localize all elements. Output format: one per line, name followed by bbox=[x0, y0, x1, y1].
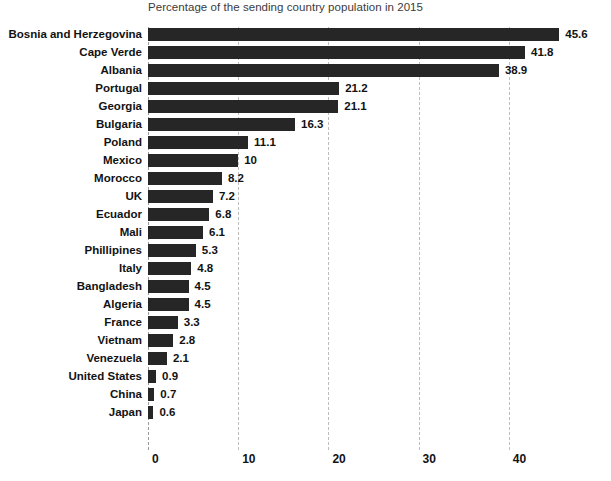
bar-value-label: 41.8 bbox=[531, 46, 553, 59]
bar-category-label: Mexico bbox=[0, 154, 142, 167]
bar-value-label: 0.6 bbox=[159, 406, 175, 419]
bar bbox=[148, 46, 525, 59]
bar-category-label: Phillipines bbox=[0, 244, 142, 257]
bar-category-label: France bbox=[0, 316, 142, 329]
bar-category-label: Italy bbox=[0, 262, 142, 275]
bar-value-label: 11.1 bbox=[254, 136, 276, 149]
bar-category-label: United States bbox=[0, 370, 142, 383]
chart-title: Percentage of the sending country popula… bbox=[148, 1, 423, 13]
bar bbox=[148, 136, 248, 149]
bar-row: Italy4.8 bbox=[0, 261, 611, 279]
bar-category-label: Venezuela bbox=[0, 352, 142, 365]
bar bbox=[148, 406, 153, 419]
bar bbox=[148, 244, 196, 257]
bar bbox=[148, 280, 189, 293]
bar-row: Albania38.9 bbox=[0, 63, 611, 81]
x-tick-label-0: 0 bbox=[152, 452, 159, 466]
bar bbox=[148, 190, 213, 203]
bar-category-label: Vietnam bbox=[0, 334, 142, 347]
bar-category-label: Bangladesh bbox=[0, 280, 142, 293]
bar-row: Japan0.6 bbox=[0, 405, 611, 423]
bar-row: France3.3 bbox=[0, 315, 611, 333]
bar bbox=[148, 28, 559, 41]
bar-value-label: 2.1 bbox=[173, 352, 189, 365]
bar-category-label: Albania bbox=[0, 64, 142, 77]
bar-row: China0.7 bbox=[0, 387, 611, 405]
bar-value-label: 45.6 bbox=[565, 28, 587, 41]
bar bbox=[148, 352, 167, 365]
bar bbox=[148, 334, 173, 347]
bar-row: Bulgaria16.3 bbox=[0, 117, 611, 135]
bar bbox=[148, 298, 189, 311]
x-tick-label-30: 30 bbox=[423, 452, 436, 466]
bar-row: Mali6.1 bbox=[0, 225, 611, 243]
bar-value-label: 0.9 bbox=[162, 370, 178, 383]
bar-value-label: 2.8 bbox=[179, 334, 195, 347]
bar bbox=[148, 172, 222, 185]
bar-category-label: Poland bbox=[0, 136, 142, 149]
bar-value-label: 4.5 bbox=[195, 298, 211, 311]
bar bbox=[148, 100, 338, 113]
x-axis: 010203040 bbox=[0, 452, 611, 472]
bar-category-label: Bulgaria bbox=[0, 118, 142, 131]
bar bbox=[148, 208, 209, 221]
bar bbox=[148, 370, 156, 383]
bar bbox=[148, 226, 203, 239]
bar-row: Phillipines5.3 bbox=[0, 243, 611, 261]
bar-category-label: Georgia bbox=[0, 100, 142, 113]
bar-row: Portugal21.2 bbox=[0, 81, 611, 99]
bar-row: Bosnia and Herzegovina45.6 bbox=[0, 27, 611, 45]
bar-category-label: Portugal bbox=[0, 82, 142, 95]
bar-value-label: 6.1 bbox=[209, 226, 225, 239]
bar bbox=[148, 316, 178, 329]
bar-value-label: 16.3 bbox=[301, 118, 323, 131]
bar-row: Georgia21.1 bbox=[0, 99, 611, 117]
bar-category-label: China bbox=[0, 388, 142, 401]
bar-row: Vietnam2.8 bbox=[0, 333, 611, 351]
bar-value-label: 8.2 bbox=[228, 172, 244, 185]
bar-row: Venezuela2.1 bbox=[0, 351, 611, 369]
bar-row: UK7.2 bbox=[0, 189, 611, 207]
bar-value-label: 21.1 bbox=[344, 100, 366, 113]
bar-value-label: 21.2 bbox=[345, 82, 367, 95]
bar bbox=[148, 118, 295, 131]
bar-category-label: Japan bbox=[0, 406, 142, 419]
bar-row: United States0.9 bbox=[0, 369, 611, 387]
bar-category-label: Algeria bbox=[0, 298, 142, 311]
bar-value-label: 0.7 bbox=[160, 388, 176, 401]
bar-row: Bangladesh4.5 bbox=[0, 279, 611, 297]
bar-value-label: 4.5 bbox=[195, 280, 211, 293]
bar-category-label: UK bbox=[0, 190, 142, 203]
bar-chart: Percentage of the sending country popula… bbox=[0, 0, 611, 481]
bar-value-label: 7.2 bbox=[219, 190, 235, 203]
bar-row: Morocco8.2 bbox=[0, 171, 611, 189]
plot-area: Bosnia and Herzegovina45.6Cape Verde41.8… bbox=[0, 27, 611, 447]
bar-category-label: Cape Verde bbox=[0, 46, 142, 59]
bar-value-label: 10 bbox=[244, 154, 257, 167]
bar bbox=[148, 154, 238, 167]
bar-category-label: Morocco bbox=[0, 172, 142, 185]
bar-value-label: 5.3 bbox=[202, 244, 218, 257]
bar-row: Ecuador6.8 bbox=[0, 207, 611, 225]
bar-row: Cape Verde41.8 bbox=[0, 45, 611, 63]
x-tick-label-10: 10 bbox=[242, 452, 255, 466]
bar-row: Mexico10 bbox=[0, 153, 611, 171]
bar bbox=[148, 388, 154, 401]
bar-value-label: 4.8 bbox=[197, 262, 213, 275]
bar bbox=[148, 82, 339, 95]
bar-row: Poland11.1 bbox=[0, 135, 611, 153]
bar-category-label: Bosnia and Herzegovina bbox=[0, 28, 142, 41]
bar-value-label: 38.9 bbox=[505, 64, 527, 77]
bar-category-label: Ecuador bbox=[0, 208, 142, 221]
bar-row: Algeria4.5 bbox=[0, 297, 611, 315]
bar-category-label: Mali bbox=[0, 226, 142, 239]
x-tick-label-40: 40 bbox=[513, 452, 526, 466]
bar-value-label: 6.8 bbox=[215, 208, 231, 221]
x-tick-label-20: 20 bbox=[332, 452, 345, 466]
bar bbox=[148, 64, 499, 77]
bar-value-label: 3.3 bbox=[184, 316, 200, 329]
bar bbox=[148, 262, 191, 275]
